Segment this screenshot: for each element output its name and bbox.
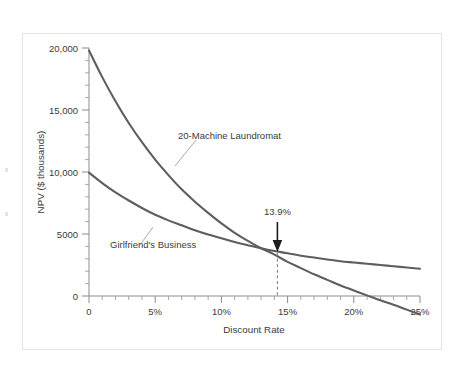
x-tick-label-10: 10% bbox=[212, 306, 232, 317]
series-curves-group bbox=[89, 50, 420, 314]
y-tick-label-10000: 10,000 bbox=[49, 167, 78, 178]
axes-group bbox=[89, 48, 420, 296]
y-tick-label-5000: 5000 bbox=[57, 229, 78, 240]
x-tick-label-5: 5% bbox=[148, 306, 162, 317]
figure-root: 0 5000 10,000 15,000 20,000 bbox=[0, 0, 464, 372]
series-label-20-machine-laundromat: 20-Machine Laundromat bbox=[178, 130, 281, 141]
series-label-girlfriends-business: Girlfriend's Business bbox=[110, 239, 197, 250]
series-curve-girlfriends-business bbox=[89, 173, 420, 269]
x-axis-tick-labels: 0 5% 10% 15% 20% 25% bbox=[86, 306, 430, 317]
series-label-girlfriend-group: Girlfriend's Business bbox=[110, 227, 197, 250]
y-tick-label-15000: 15,000 bbox=[49, 105, 78, 116]
x-tick-label-15: 15% bbox=[278, 306, 298, 317]
x-axis-title: Discount Rate bbox=[223, 324, 285, 335]
x-axis-minor-ticks bbox=[102, 296, 407, 300]
x-tick-label-0: 0 bbox=[86, 306, 91, 317]
y-axis-title: NPV ($ thousands) bbox=[35, 131, 46, 214]
leader-line-laundromat bbox=[175, 140, 196, 166]
y-tick-label-0: 0 bbox=[73, 291, 78, 302]
series-label-laundromat-group: 20-Machine Laundromat bbox=[175, 130, 281, 166]
series-curve-20-machine-laundromat bbox=[89, 50, 420, 314]
y-axis-tick-labels: 0 5000 10,000 15,000 20,000 bbox=[49, 43, 78, 302]
crossover-rate-label: 13.9% bbox=[264, 206, 291, 217]
x-tick-label-20: 20% bbox=[344, 306, 364, 317]
npv-profile-plot: 0 5000 10,000 15,000 20,000 bbox=[0, 0, 464, 372]
y-tick-label-20000: 20,000 bbox=[49, 43, 78, 54]
